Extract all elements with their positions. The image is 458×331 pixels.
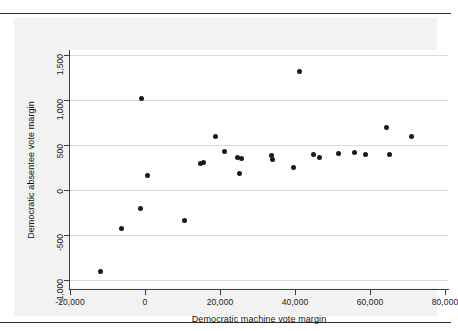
data-point (145, 173, 150, 178)
x-axis-title: Democratic machine vote margin (70, 314, 448, 324)
x-tick-label: 40,000 (282, 297, 309, 307)
x-tick-label: 20,000 (207, 297, 234, 307)
data-point (336, 151, 341, 156)
data-point (291, 165, 296, 170)
x-tick (295, 290, 296, 295)
data-point (119, 226, 124, 231)
y-axis-title-container: Democratic absentee vote margin (24, 50, 38, 290)
y-tick-label: 1,500 (55, 54, 65, 75)
gridline-y (70, 235, 448, 236)
data-point (363, 152, 368, 157)
y-tick-label: 500 (55, 144, 65, 158)
data-point (201, 160, 206, 165)
data-point (98, 269, 103, 274)
gridline-y (70, 190, 448, 191)
gridline-y (70, 280, 448, 281)
y-tick-label: -500 (55, 234, 65, 251)
data-point (138, 206, 143, 211)
data-point (317, 155, 322, 160)
data-point (237, 171, 242, 176)
x-tick-label: 80,000 (432, 297, 458, 307)
data-point (311, 152, 316, 157)
data-point (297, 69, 302, 74)
y-tick-label: 0 (55, 189, 65, 194)
y-axis-title: Democratic absentee vote margin (26, 101, 36, 239)
x-tick-label: 60,000 (357, 297, 384, 307)
y-tick (64, 190, 69, 191)
x-tick (370, 290, 371, 295)
plot-area (70, 50, 448, 288)
gridline-y (70, 145, 448, 146)
x-tick (445, 290, 446, 295)
data-point (384, 125, 389, 130)
x-tick (145, 290, 146, 295)
data-point (213, 134, 218, 139)
page-rule-top (0, 13, 451, 14)
figure-container: -1,000-50005001,0001,500-20,000020,00040… (14, 18, 437, 316)
data-point (387, 152, 392, 157)
data-point (409, 134, 414, 139)
data-point (222, 149, 227, 154)
x-axis-line (69, 289, 449, 290)
gridline-y (70, 100, 448, 101)
data-point (182, 218, 187, 223)
x-tick (70, 290, 71, 295)
y-tick-label: 1,000 (55, 99, 65, 120)
data-point (270, 157, 275, 162)
x-tick-label: 0 (143, 297, 148, 307)
x-tick (220, 290, 221, 295)
data-point (139, 96, 144, 101)
data-point (239, 156, 244, 161)
x-tick-label: -20,000 (55, 297, 85, 307)
y-axis-line (69, 50, 70, 290)
gridline-y (70, 55, 448, 56)
data-point (352, 150, 357, 155)
